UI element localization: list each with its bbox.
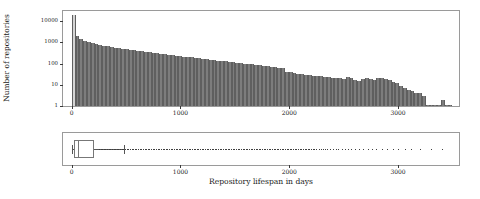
boxplot-outlier <box>325 149 326 150</box>
y-axis-tick-label: 10 <box>51 82 58 87</box>
x-axis-tick-label: 3000 <box>390 110 405 116</box>
x-axis-tick-label: 1000 <box>173 110 188 116</box>
x-axis-tick-label: 2000 <box>282 169 297 175</box>
boxplot-outlier <box>405 149 406 150</box>
boxplot-outlier <box>376 149 377 150</box>
y-axis-tick <box>60 85 63 86</box>
y-axis-tick <box>60 64 63 65</box>
y-axis-tick <box>60 21 63 22</box>
boxplot-outlier <box>338 149 339 150</box>
boxplot-outlier <box>420 149 421 150</box>
boxplot-panel: 0100020003000 <box>62 132 460 166</box>
boxplot-outlier <box>393 149 394 150</box>
boxplot-outlier <box>431 149 432 150</box>
x-axis-tick-label: 3000 <box>390 169 405 175</box>
y-axis-tick-label: 1 <box>55 103 58 108</box>
x-axis-tick-label: 0 <box>70 169 74 175</box>
boxplot-outlier <box>348 149 349 150</box>
y-axis-tick <box>60 106 63 107</box>
y-axis-tick-label: 10000 <box>41 18 58 23</box>
boxplot-outlier <box>387 149 388 150</box>
x-axis-tick-label: 1000 <box>173 169 188 175</box>
boxplot-outlier <box>411 149 412 150</box>
y-axis-title: Number of repositories <box>2 14 11 101</box>
boxplot-whisker-cap <box>72 145 73 154</box>
boxplot-outlier <box>442 149 443 150</box>
boxplot-outlier <box>316 149 317 150</box>
y-axis-tick-label: 100 <box>48 61 58 66</box>
x-axis-tick-label: 0 <box>70 110 74 116</box>
y-axis-tick-label: 1000 <box>44 40 58 45</box>
boxplot-outlier <box>351 149 352 150</box>
boxplot-outlier <box>345 149 346 150</box>
boxplot-outlier <box>327 149 328 150</box>
boxplot-outlier <box>330 149 331 150</box>
histogram-panel: 1101001000100000100020003000 <box>62 10 460 107</box>
boxplot-plot-area: 0100020003000 <box>63 133 459 165</box>
x-axis-tick-label: 2000 <box>282 110 297 116</box>
boxplot-outlier <box>363 149 364 150</box>
histogram-plot-area: 1101001000100000100020003000 <box>63 11 459 106</box>
x-axis-title: Repository lifespan in days <box>209 177 313 186</box>
boxplot-outlier <box>336 149 337 150</box>
y-axis-tick <box>60 42 63 43</box>
boxplot-outlier <box>368 149 369 150</box>
boxplot-outlier <box>323 149 324 150</box>
boxplot-outlier <box>398 149 399 150</box>
boxplot-outlier <box>359 149 360 150</box>
boxplot-outlier <box>333 149 334 150</box>
boxplot-outlier <box>314 149 315 150</box>
boxplot-median <box>78 140 79 158</box>
boxplot-outlier <box>355 149 356 150</box>
boxplot-outlier <box>342 149 343 150</box>
boxplot-outlier <box>319 149 320 150</box>
histogram-bar <box>449 105 453 106</box>
boxplot-outlier <box>321 149 322 150</box>
figure: 1101001000100000100020003000 Number of r… <box>0 0 480 199</box>
boxplot-outlier <box>382 149 383 150</box>
boxplot-outlier <box>372 149 373 150</box>
